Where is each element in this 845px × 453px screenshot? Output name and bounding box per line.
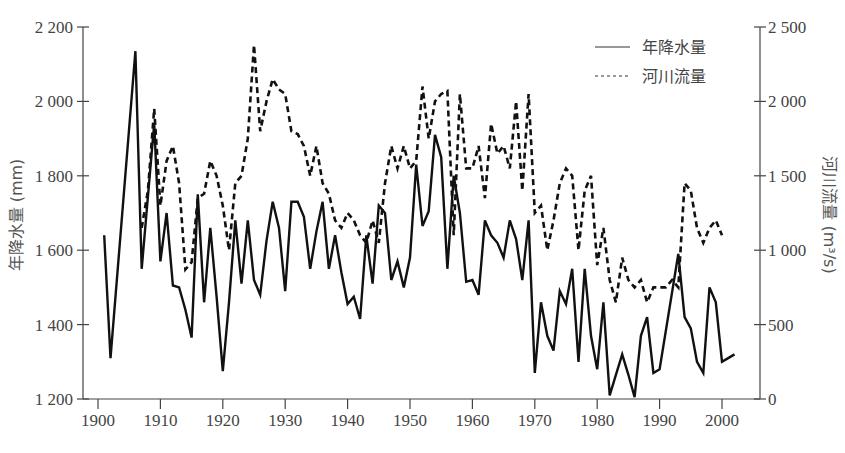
dual-axis-line-chart: 1 2001 4001 6001 8002 0002 20005001 0001…: [0, 0, 845, 453]
x-tick-label: 2000: [705, 411, 739, 430]
precipitation-line: [104, 51, 734, 397]
left-axis-title: 年降水量 (mm): [7, 159, 26, 272]
right-tick-label: 0: [768, 390, 777, 409]
x-tick-label: 1910: [143, 411, 177, 430]
left-tick-label: 1 200: [35, 390, 73, 409]
x-tick-label: 1990: [643, 411, 677, 430]
x-tick-label: 1980: [580, 411, 614, 430]
right-tick-label: 500: [768, 316, 794, 335]
x-tick-label: 1970: [518, 411, 552, 430]
x-tick-label: 1900: [81, 411, 115, 430]
right-tick-label: 2 500: [768, 18, 806, 37]
right-tick-label: 1 500: [768, 167, 806, 186]
x-tick-label: 1920: [206, 411, 240, 430]
left-tick-label: 1 400: [35, 316, 73, 335]
right-tick-label: 1 000: [768, 241, 806, 260]
series-lines: [104, 45, 734, 397]
x-tick-label: 1960: [455, 411, 489, 430]
x-tick-label: 1940: [331, 411, 365, 430]
left-tick-label: 2 000: [35, 92, 73, 111]
left-tick-label: 1 600: [35, 241, 73, 260]
legend: 年降水量 河川流量: [595, 38, 706, 86]
legend-label-precipitation: 年降水量: [642, 38, 706, 57]
x-tick-label: 1950: [393, 411, 427, 430]
right-axis-title: 河川流量 (m³/s): [820, 156, 839, 273]
legend-label-river-flow: 河川流量: [642, 67, 706, 86]
left-tick-label: 1 800: [35, 167, 73, 186]
x-tick-label: 1930: [268, 411, 302, 430]
left-tick-label: 2 200: [35, 18, 73, 37]
right-tick-label: 2 000: [768, 92, 806, 111]
